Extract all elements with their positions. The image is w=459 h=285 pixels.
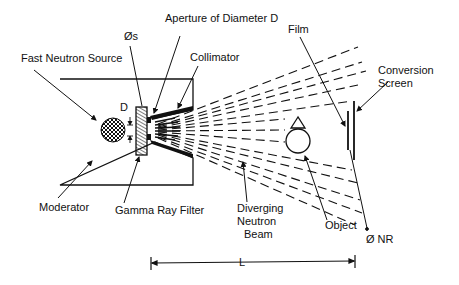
label-object: Object xyxy=(325,219,357,231)
label-beam-2: Neutron xyxy=(237,215,276,227)
label-d: D xyxy=(120,101,128,113)
label-phi-s: Øs xyxy=(124,30,139,42)
label-gamma-ray-filter: Gamma Ray Filter xyxy=(115,204,205,216)
moderator-block xyxy=(60,79,193,185)
d-dimension-marker xyxy=(127,117,133,143)
fast-neutron-source xyxy=(101,118,125,142)
label-moderator: Moderator xyxy=(39,201,89,213)
label-collimator: Collimator xyxy=(190,51,240,63)
label-beam-1: Diverging xyxy=(237,202,283,214)
label-film: Film xyxy=(288,23,309,35)
test-object xyxy=(286,117,310,153)
label-phi-nr: Ø NR xyxy=(366,233,394,245)
label-fast-neutron-source: Fast Neutron Source xyxy=(21,52,123,64)
label-length: L xyxy=(239,256,245,268)
label-aperture: Aperture of Diameter D xyxy=(165,12,278,24)
label-conversion-screen-2: Screen xyxy=(378,77,413,89)
length-dimension xyxy=(151,255,355,270)
label-conversion-screen-1: Conversion xyxy=(378,64,434,76)
neutron-radiography-diagram: Fast Neutron Source Øs Aperture of Diame… xyxy=(0,0,459,285)
label-beam-3: Beam xyxy=(244,228,273,240)
gamma-ray-filter xyxy=(136,107,147,155)
diverging-neutron-beam xyxy=(158,47,366,225)
